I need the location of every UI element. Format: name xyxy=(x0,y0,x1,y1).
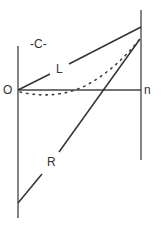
label-c: -C- xyxy=(30,37,47,51)
line-l-lower xyxy=(18,74,50,90)
label-n: n xyxy=(144,83,151,97)
line-r-upper xyxy=(59,39,140,152)
label-r: R xyxy=(47,155,56,169)
label-l: L xyxy=(56,62,63,76)
diagram-canvas: -C- L R O n xyxy=(0,0,162,230)
label-origin: O xyxy=(3,83,12,97)
line-r-lower xyxy=(18,174,42,203)
line-l-upper xyxy=(69,27,141,64)
